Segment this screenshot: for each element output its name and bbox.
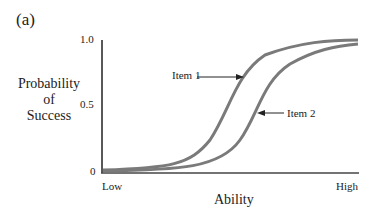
arrowhead-icon [257, 110, 265, 116]
curve-item-2 [103, 44, 358, 171]
plot-area [0, 0, 372, 218]
chart-figure: (a) Probability of Success 1.0 0.5 0 Low… [0, 0, 372, 218]
